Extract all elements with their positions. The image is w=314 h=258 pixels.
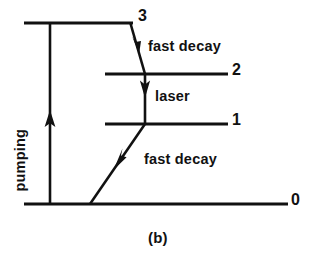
transition-label-fast-decay-top: fast decay: [148, 39, 221, 54]
energy-level-label-2: 2: [232, 62, 241, 78]
energy-level-label-0: 0: [291, 192, 300, 208]
energy-level-label-1: 1: [232, 112, 241, 128]
energy-level-label-3: 3: [138, 8, 147, 24]
transition-label-laser: laser: [155, 89, 190, 104]
transition-label-fast-decay-bottom: fast decay: [144, 152, 217, 167]
energy-level-figure: 3 2 1 0 fast decay laser fast decay pump…: [0, 0, 314, 258]
transition-label-pumping: pumping: [13, 129, 28, 192]
figure-caption: (b): [148, 230, 168, 245]
